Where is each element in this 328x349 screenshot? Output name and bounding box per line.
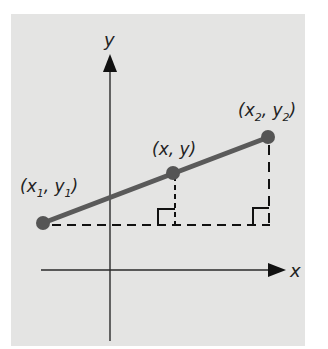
point-x-y (166, 166, 180, 180)
line-segment-diagram: y x (x1, y1) (x, y) (x2, y2) (0, 0, 328, 349)
point-x2-y2 (261, 130, 275, 144)
label-x-y: (x, y) (152, 139, 196, 159)
y-axis-label: y (103, 29, 115, 50)
x-axis-label: x (289, 260, 301, 281)
point-x1-y1 (36, 216, 50, 230)
